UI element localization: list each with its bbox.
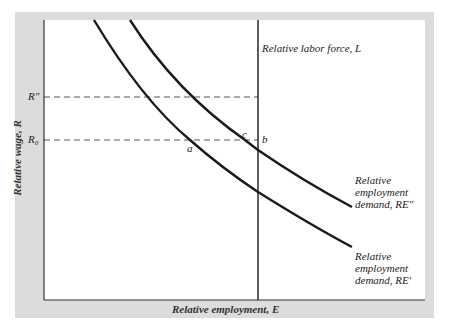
re-prime-label-line3: demand, RE′ — [355, 274, 411, 286]
x-axis-label: Relative employment, E — [172, 303, 279, 315]
re-prime-label-line2: employment — [355, 262, 411, 274]
re-prime-label: Relative employment demand, RE′ — [355, 250, 411, 286]
point-a-label: a — [187, 142, 193, 154]
re-double-prime-label: Relative employment demand, RE″ — [355, 174, 413, 210]
re-double-prime-label-line3: demand, RE″ — [355, 198, 413, 210]
point-c-label: c — [242, 128, 247, 140]
point-b-label: b — [262, 133, 268, 145]
re-prime-label-line1: Relative — [355, 250, 411, 262]
r0-tick-label: R₀ — [28, 133, 39, 145]
r-double-prime-tick-label: R″ — [28, 90, 39, 102]
y-axis-label: Relative wage, R — [11, 103, 23, 213]
labor-force-label: Relative labor force, L — [262, 42, 361, 54]
re-double-prime-label-line1: Relative — [355, 174, 413, 186]
re-double-prime-label-line2: employment — [355, 186, 413, 198]
re-prime-curve — [94, 20, 352, 247]
